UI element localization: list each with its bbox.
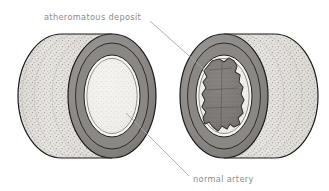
artery-illustration-canvas: atheromatous deposit normal artery <box>0 0 329 191</box>
artery-illustration-figure: atheromatous deposit normal artery <box>0 0 329 191</box>
left-artery-normal <box>7 30 156 162</box>
left-artery-lumen-texture <box>87 59 137 134</box>
label-normal-artery: normal artery <box>193 174 254 184</box>
right-artery-diseased <box>180 30 327 162</box>
label-atheromatous-deposit: atheromatous deposit <box>44 12 142 22</box>
